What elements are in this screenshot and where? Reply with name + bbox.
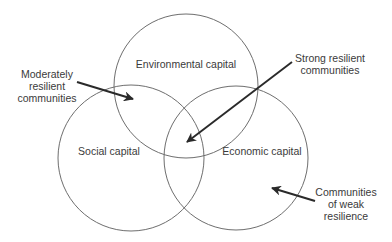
label-social-capital: Social capital	[78, 145, 140, 157]
venn-diagram: Environmental capital Social capital Eco…	[0, 0, 392, 242]
label-environmental-capital: Environmental capital	[136, 58, 236, 70]
circles	[58, 14, 308, 231]
label-economic-capital: Economic capital	[222, 145, 301, 157]
arrow-moderately-icon	[77, 82, 133, 99]
arrow-strong-icon	[187, 62, 292, 142]
arrow-weak-icon	[272, 188, 315, 201]
annotation-moderately-resilient: Moderately resilient communities	[18, 68, 77, 104]
annotation-weak-resilience: Communities of weak resilience	[315, 186, 376, 222]
annotation-strong-resilient: Strong resilient communities	[295, 52, 365, 76]
arrows	[77, 62, 315, 201]
